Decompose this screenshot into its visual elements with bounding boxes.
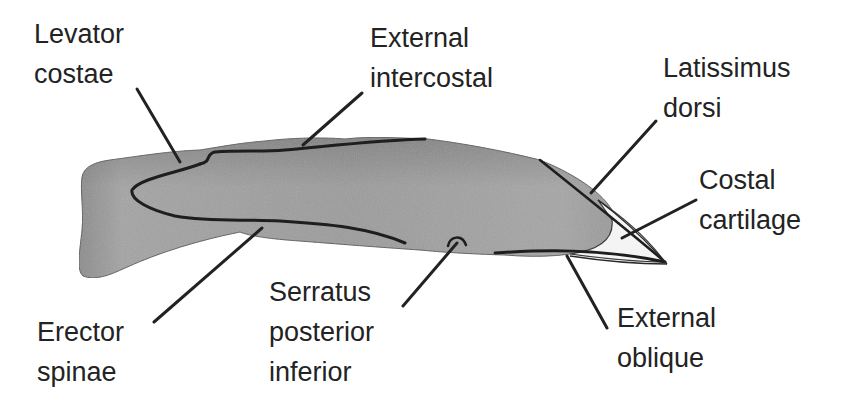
label-line: costae	[34, 54, 124, 94]
label-line: cartilage	[699, 200, 801, 240]
rib-bone	[79, 137, 615, 277]
label-line: Levator	[34, 14, 124, 54]
leader-external-oblique	[567, 256, 607, 328]
label-erector-spinae: Erector spinae	[37, 312, 124, 392]
label-line: Latissimus	[663, 48, 791, 88]
label-serratus-posterior-inferior: Serratus posterior inferior	[269, 272, 374, 392]
label-line: External	[370, 18, 493, 58]
leader-costal-cartilage	[622, 200, 696, 238]
label-costal-cartilage: Costal cartilage	[699, 160, 801, 240]
label-line: Costal	[699, 160, 801, 200]
label-line: intercostal	[370, 58, 493, 98]
leader-levator-costae	[137, 89, 180, 162]
label-line: posterior	[269, 312, 374, 352]
label-line: Erector	[37, 312, 124, 352]
label-line: dorsi	[663, 88, 791, 128]
label-line: External	[617, 298, 716, 338]
label-line: inferior	[269, 352, 374, 392]
label-line: spinae	[37, 352, 124, 392]
leader-external-intercostal	[303, 93, 362, 145]
leader-latissimus-dorsi	[591, 121, 656, 193]
label-external-intercostal: External intercostal	[370, 18, 493, 98]
label-line: oblique	[617, 338, 716, 378]
label-external-oblique: External oblique	[617, 298, 716, 378]
rib-muscle-attachment-diagram: Levator costae External intercostal Lati…	[0, 0, 850, 413]
leader-serratus-posterior-inferior	[403, 243, 457, 306]
label-levator-costae: Levator costae	[34, 14, 124, 94]
label-line: Serratus	[269, 272, 374, 312]
label-latissimus-dorsi: Latissimus dorsi	[663, 48, 791, 128]
